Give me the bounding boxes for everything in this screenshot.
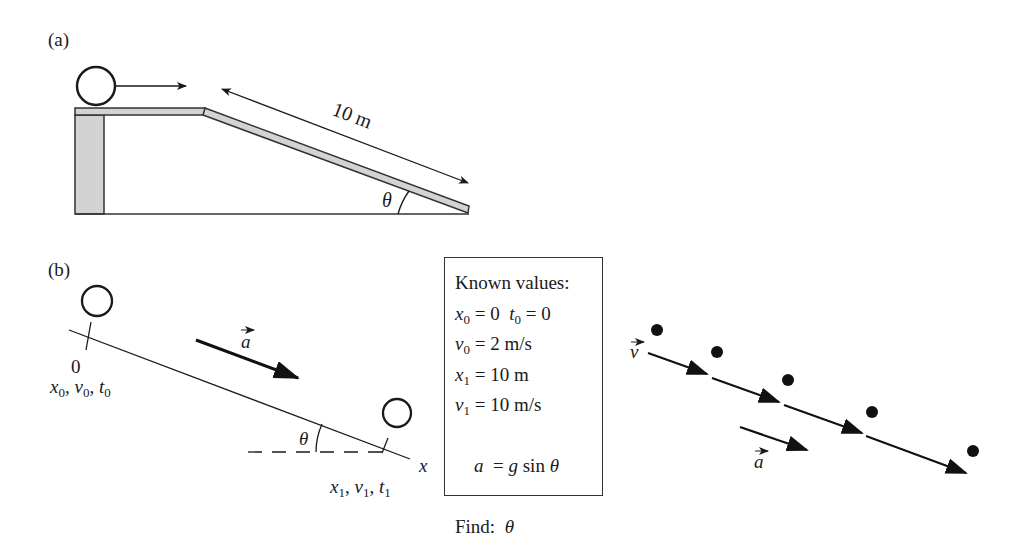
platform [75, 108, 205, 115]
position-dot [711, 346, 723, 358]
velocity-vector-arrow [866, 436, 966, 473]
velocity-vector-arrow [784, 405, 862, 433]
motion-diagram: v a [630, 324, 979, 473]
known-row-a: a = g sin θ [455, 421, 602, 513]
position-dot [651, 324, 663, 336]
known-row-find: Find: θ [455, 512, 602, 537]
ball-icon [77, 67, 115, 105]
start-variables-label: x0, v0, t0 [49, 376, 111, 400]
position-dot [782, 374, 794, 386]
known-row-v1: v1 = 10 m/s [455, 390, 602, 421]
known-values-box: Known values: x0 = 0 t0 = 0 v0 = 2 m/s x… [444, 257, 603, 496]
ramp [203, 108, 469, 213]
panel-a-label: (a) [48, 29, 69, 51]
panel-b-label: (b) [48, 259, 70, 281]
panel-b: (b) 0 x0, v0, t0 a θ x x1, v1, t1 [48, 259, 428, 500]
acceleration-vector-arrow [740, 427, 807, 450]
incline-axis [69, 330, 410, 459]
known-row-initial: x0 = 0 t0 = 0 [455, 299, 602, 330]
velocity-vector-arrow [712, 378, 779, 402]
origin-label: 0 [71, 356, 81, 377]
known-values-title: Known values: [455, 268, 602, 299]
start-ball-icon [82, 286, 112, 316]
origin-tick [86, 322, 91, 350]
axis-x-label: x [418, 455, 428, 476]
end-variables-label: x1, v1, t1 [329, 476, 391, 500]
acceleration-label: a [241, 331, 251, 352]
position-dot [866, 406, 878, 418]
position-dot [967, 445, 979, 457]
velocity-label: v [630, 341, 639, 362]
end-ball-icon [383, 399, 411, 427]
motion-acceleration-label: a [754, 451, 764, 472]
known-row-x1: x1 = 10 m [455, 360, 602, 391]
angle-theta-label-b: θ [299, 428, 308, 449]
ramp-length-label: 10 m [329, 98, 375, 133]
known-row-v0: v0 = 2 m/s [455, 329, 602, 360]
angle-arc-b [316, 424, 322, 452]
support-pillar [75, 115, 104, 214]
velocity-vector-arrow [648, 353, 707, 374]
angle-theta-label: θ [382, 189, 392, 211]
angle-arc [398, 191, 409, 214]
panel-a: (a) 10 m θ [48, 29, 469, 214]
